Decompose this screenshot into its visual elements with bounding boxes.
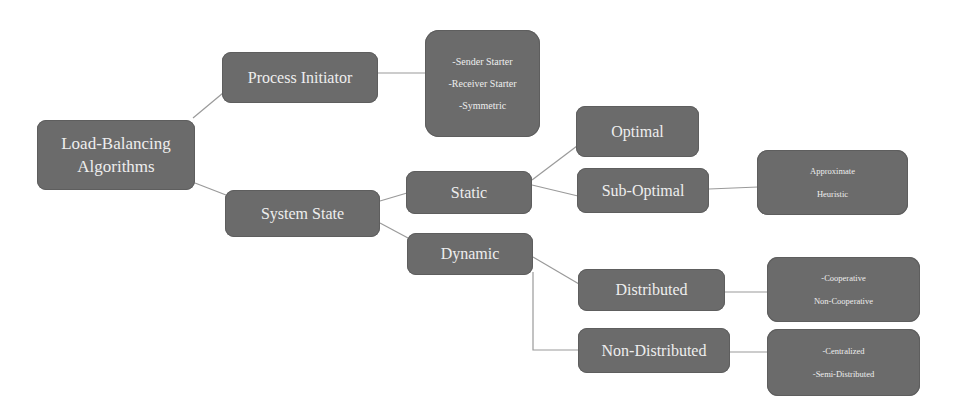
node-load-balancing-algorithms: Load-Balancing Algorithms <box>37 120 195 190</box>
node-label: Distributed <box>616 279 688 301</box>
edge-system-state-dynamic <box>380 223 408 238</box>
node-distributed-types: -Cooperative Non-Cooperative <box>767 257 920 322</box>
list-item: -Semi-Distributed <box>813 369 874 380</box>
node-optimal: Optimal <box>576 106 699 157</box>
node-distributed: Distributed <box>578 269 725 311</box>
node-label: Optimal <box>611 121 663 143</box>
node-system-state: System State <box>225 190 380 237</box>
list-item: -Centralized <box>822 346 864 357</box>
node-label: Process Initiator <box>248 67 352 89</box>
node-dynamic: Dynamic <box>407 233 533 275</box>
node-non-distributed: Non-Distributed <box>578 328 730 373</box>
edge-static-optimal <box>532 146 577 180</box>
edge-dynamic-non-distributed <box>533 272 579 350</box>
list-item: -Receiver Starter <box>448 78 516 90</box>
list-item: Non-Cooperative <box>814 296 873 307</box>
node-label: Dynamic <box>441 243 500 265</box>
edge-system-state-static <box>380 193 407 201</box>
list-item: Approximate <box>810 166 855 177</box>
node-sub-optimal: Sub-Optimal <box>577 168 709 213</box>
edge-sub-optimal-items <box>709 187 758 189</box>
node-non-distributed-types: -Centralized -Semi-Distributed <box>767 329 920 396</box>
node-label: Load-Balancing <box>61 132 171 155</box>
list-item: Heuristic <box>817 189 848 200</box>
node-sub-optimal-types: Approximate Heuristic <box>757 150 908 215</box>
node-label: Sub-Optimal <box>602 180 685 202</box>
node-label: System State <box>261 203 344 225</box>
node-initiator-types: -Sender Starter -Receiver Starter -Symme… <box>425 30 540 137</box>
node-label: Non-Distributed <box>602 340 707 362</box>
edge-dynamic-distributed <box>533 257 579 284</box>
node-process-initiator: Process Initiator <box>222 52 378 103</box>
edge-root-system-state <box>195 183 226 195</box>
node-static: Static <box>406 171 532 214</box>
edge-root-process-initiator <box>193 93 223 118</box>
node-label: Static <box>451 182 487 204</box>
edge-static-sub-optimal <box>532 185 578 196</box>
node-label: Algorithms <box>77 155 154 178</box>
list-item: -Symmetric <box>459 100 506 112</box>
list-item: -Cooperative <box>821 273 865 284</box>
list-item: -Sender Starter <box>452 56 512 68</box>
